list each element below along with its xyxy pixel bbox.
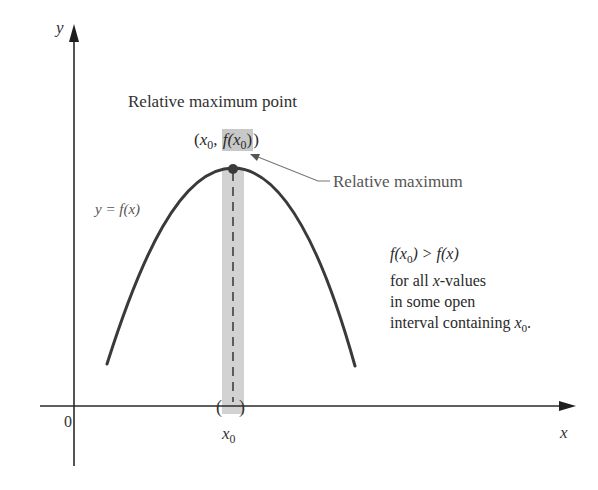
point-fx-prefix: f(x	[223, 130, 241, 149]
interval-open-paren: (	[216, 397, 222, 418]
function-label: y = f(x)	[95, 202, 140, 217]
x0-tick-var: x	[222, 424, 230, 443]
point-fx-close: )	[247, 130, 253, 149]
condition-line4-prefix: interval containing	[390, 314, 514, 331]
point-fx-highlight: f(x0)	[222, 129, 254, 151]
x0-tick-sub: 0	[230, 432, 236, 446]
condition-text-block: f(x0) > f(x) for all x-values in some op…	[390, 243, 531, 339]
condition-line-2: for all x-values	[390, 270, 531, 291]
point-coordinates-label: (x0, f(x0))	[194, 131, 259, 152]
x-axis-label: x	[560, 424, 568, 441]
condition-line-3: in some open	[390, 291, 531, 312]
x0-tick-label: x0	[222, 425, 236, 446]
point-comma: ,	[213, 130, 217, 149]
condition-line2-prefix: for all	[390, 272, 433, 289]
condition-line-4: interval containing x0.	[390, 312, 531, 339]
x-axis-arrow-icon	[559, 401, 576, 411]
condition-line2-suffix: -values	[440, 272, 486, 289]
x-axis	[40, 401, 576, 411]
condition-line2-var: x	[433, 272, 440, 289]
point-close-paren: )	[253, 130, 259, 149]
condition-fx0-prefix: f(x	[390, 245, 407, 262]
diagram-title: Relative maximum point	[128, 93, 297, 110]
annotation-arrowhead-icon	[250, 154, 260, 161]
y-axis-label: y	[56, 19, 64, 36]
origin-label: 0	[64, 414, 72, 430]
condition-line-1: f(x0) > f(x)	[390, 243, 531, 270]
condition-fx0-suffix: ) > f(x)	[412, 245, 458, 262]
condition-line4-var: x	[514, 314, 521, 331]
interval-close-paren: )	[239, 397, 245, 418]
y-axis	[69, 24, 79, 466]
relative-maximum-point	[228, 164, 238, 174]
relative-maximum-annotation: Relative maximum	[333, 173, 463, 190]
condition-line4-suffix: .	[527, 314, 531, 331]
y-axis-arrow-icon	[69, 24, 79, 42]
